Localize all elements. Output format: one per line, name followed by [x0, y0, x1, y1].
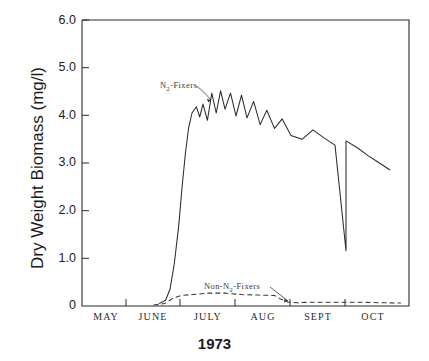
leader-line-non-n2-fixers — [270, 287, 288, 303]
chart-figure: Dry Weight Biomass (mg/l) 6.0 5.0 4.0 3.… — [0, 0, 429, 361]
plot-frame — [82, 20, 409, 306]
chart-plot-area — [0, 0, 429, 361]
y-axis-ticks — [82, 20, 89, 258]
series-line-non-n2-fixers — [154, 293, 402, 305]
leader-line-n2-fixers — [196, 86, 211, 103]
series-line-n2-fixers — [159, 91, 390, 304]
